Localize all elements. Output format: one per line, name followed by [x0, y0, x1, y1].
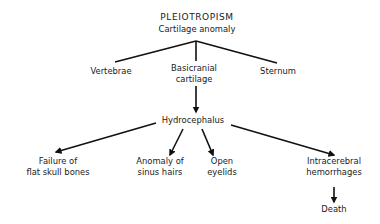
node-anomaly-sinus-hairs: Anomaly of sinus hairs	[136, 156, 183, 178]
node-open-line1: Open	[207, 156, 237, 167]
node-vertebrae: Vertebrae	[90, 66, 131, 77]
arrow-hydrocephalus-intracerebral	[231, 125, 334, 155]
node-anomaly-line2: sinus hairs	[136, 167, 183, 178]
edge-root-sternum	[196, 41, 277, 63]
node-failure-flat-skull-bones: Failure of flat skull bones	[26, 156, 89, 178]
pleiotropism-diagram: PLEIOTROPISM Cartilage anomaly Vertebrae…	[0, 0, 380, 224]
node-cartilage-anomaly: Cartilage anomaly	[159, 24, 236, 35]
node-anomaly-line1: Anomaly of	[136, 156, 183, 167]
node-basicranial-line2: cartilage	[171, 74, 217, 85]
node-intracerebral-line1: Intracerebral	[306, 156, 362, 167]
node-open-eyelids: Open eyelids	[207, 156, 237, 178]
node-basicranial-cartilage: Basicranial cartilage	[171, 63, 217, 85]
diagram-title: PLEIOTROPISM	[160, 12, 233, 23]
node-open-line2: eyelids	[207, 167, 237, 178]
arrow-hydrocephalus-anomaly	[170, 129, 183, 155]
arrow-hydrocephalus-open	[202, 129, 213, 155]
node-basicranial-line1: Basicranial	[171, 63, 217, 74]
edge-root-vertebrae	[115, 41, 196, 62]
node-death: Death	[321, 204, 346, 215]
arrow-hydrocephalus-failure	[56, 123, 156, 152]
node-sternum: Sternum	[260, 66, 296, 77]
node-intracerebral-hemorrhages: Intracerebral hemorrhages	[306, 156, 362, 178]
node-failure-line2: flat skull bones	[26, 167, 89, 178]
node-failure-line1: Failure of	[26, 156, 89, 167]
node-intracerebral-line2: hemorrhages	[306, 167, 362, 178]
node-hydrocephalus: Hydrocephalus	[162, 115, 224, 126]
